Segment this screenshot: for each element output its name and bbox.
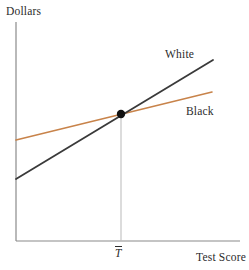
white-series-line xyxy=(16,60,213,179)
x-axis-title: Test Score xyxy=(196,252,246,264)
black-series-label: Black xyxy=(186,106,214,118)
chart-plot-area xyxy=(0,0,249,270)
figure-container: Dollars White Black T Test Score xyxy=(0,0,249,270)
crossing-point-marker xyxy=(117,110,125,118)
threshold-tick-label: T xyxy=(115,246,122,260)
black-series-line xyxy=(16,92,212,140)
threshold-tick-label-text: T xyxy=(115,246,122,260)
white-series-label: White xyxy=(165,49,194,61)
y-axis-title: Dollars xyxy=(6,6,41,18)
